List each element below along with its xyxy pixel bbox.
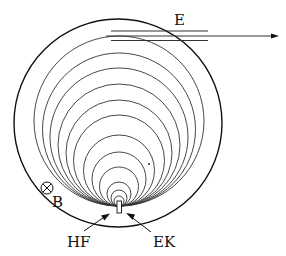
inner-orbit-circle [34, 36, 204, 206]
marker-dot [148, 163, 150, 165]
inner-orbit-circle [92, 152, 146, 206]
label-ek: EK [153, 233, 176, 251]
inner-orbit-circles [34, 36, 204, 206]
inner-orbit-circle [84, 135, 155, 206]
label-e: E [174, 11, 185, 29]
inner-orbit-circle [100, 167, 139, 206]
inner-orbit-circle [74, 115, 165, 206]
source-rectangle-icon [117, 201, 122, 213]
arrow-head-icon [271, 34, 279, 39]
label-b: B [52, 193, 63, 211]
inner-orbit-circle [43, 53, 196, 206]
electron-orbit-diagram: E B HF EK [0, 0, 286, 256]
label-hf: HF [67, 233, 91, 251]
inner-orbit-circle [50, 68, 188, 206]
